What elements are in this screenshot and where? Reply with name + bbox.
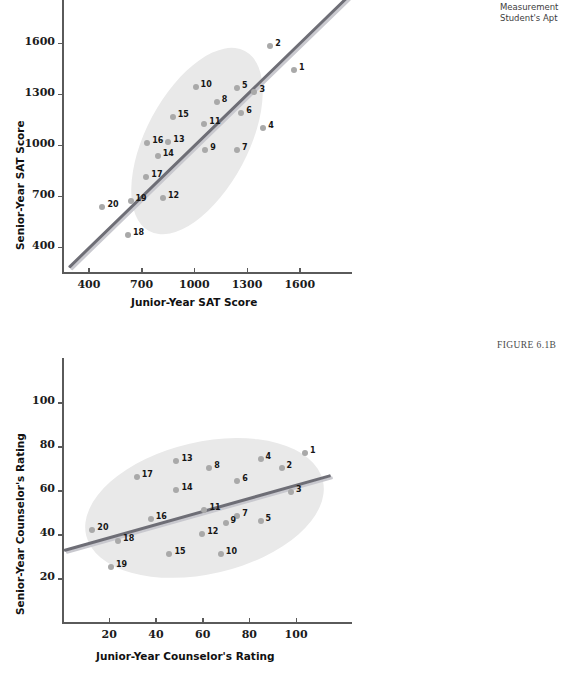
data-point-4[interactable] bbox=[258, 456, 264, 462]
data-point-label-12: 12 bbox=[207, 527, 218, 536]
y-tick-label-1600: 1600 bbox=[14, 35, 55, 48]
data-point-label-5: 5 bbox=[266, 514, 272, 523]
y-tick-label-100: 100 bbox=[14, 394, 55, 407]
data-point-label-20: 20 bbox=[97, 523, 108, 532]
data-point-label-17: 17 bbox=[142, 470, 153, 479]
data-point-label-2: 2 bbox=[287, 461, 293, 470]
y-tick-400 bbox=[58, 247, 63, 249]
x-tick-1300 bbox=[247, 268, 249, 273]
figure-a-caption: Measurement Student's Apt bbox=[500, 2, 558, 24]
y-tick-1600 bbox=[58, 43, 63, 45]
data-point-label-17: 17 bbox=[151, 170, 162, 179]
data-point-label-14: 14 bbox=[181, 483, 192, 492]
y-tick-1000 bbox=[58, 145, 63, 147]
data-point-4[interactable] bbox=[260, 125, 266, 131]
y-axis-title-b: Senior-Year Counselor's Rating bbox=[14, 433, 26, 615]
data-point-label-18: 18 bbox=[123, 534, 134, 543]
data-point-label-1: 1 bbox=[299, 63, 305, 72]
data-point-16[interactable] bbox=[144, 140, 150, 146]
data-point-label-11: 11 bbox=[209, 117, 220, 126]
y-tick-20 bbox=[58, 578, 63, 580]
data-point-label-4: 4 bbox=[266, 452, 272, 461]
y-axis-line bbox=[62, 0, 64, 272]
data-point-20[interactable] bbox=[99, 204, 105, 210]
figure-b: FIGURE 6.1B 2040608010020406080100123456… bbox=[0, 330, 572, 675]
data-point-label-16: 16 bbox=[152, 136, 163, 145]
data-point-label-8: 8 bbox=[214, 461, 220, 470]
y-tick-80 bbox=[58, 446, 63, 448]
data-point-14[interactable] bbox=[155, 153, 161, 159]
data-point-label-6: 6 bbox=[242, 474, 248, 483]
figure-b-label: FIGURE 6.1B bbox=[497, 340, 556, 351]
x-axis-line bbox=[62, 272, 352, 274]
data-point-label-11: 11 bbox=[209, 503, 220, 512]
data-point-label-9: 9 bbox=[231, 516, 237, 525]
data-point-20[interactable] bbox=[89, 527, 95, 533]
x-tick-80 bbox=[249, 618, 251, 623]
data-point-1[interactable] bbox=[302, 450, 308, 456]
data-point-10[interactable] bbox=[193, 84, 199, 90]
data-point-10[interactable] bbox=[218, 551, 224, 557]
x-tick-1000 bbox=[194, 268, 196, 273]
y-tick-1300 bbox=[58, 94, 63, 96]
x-tick-700 bbox=[141, 268, 143, 273]
data-point-label-20: 20 bbox=[107, 200, 118, 209]
data-point-label-19: 19 bbox=[116, 560, 127, 569]
data-point-label-16: 16 bbox=[156, 512, 167, 521]
data-point-label-13: 13 bbox=[181, 454, 192, 463]
data-point-label-13: 13 bbox=[173, 135, 184, 144]
data-point-label-15: 15 bbox=[178, 110, 189, 119]
x-tick-1600 bbox=[299, 268, 301, 273]
x-axis-line bbox=[62, 622, 352, 624]
data-point-label-7: 7 bbox=[242, 509, 248, 518]
data-point-2[interactable] bbox=[267, 43, 273, 49]
data-point-1[interactable] bbox=[291, 67, 297, 73]
data-point-label-7: 7 bbox=[242, 143, 248, 152]
data-point-label-18: 18 bbox=[133, 228, 144, 237]
x-tick-label-1600: 1600 bbox=[269, 278, 330, 291]
x-tick-label-100: 100 bbox=[266, 628, 327, 641]
data-point-18[interactable] bbox=[115, 538, 121, 544]
x-tick-100 bbox=[296, 618, 298, 623]
figure-a: Measurement Student's Apt 40070010001300… bbox=[0, 0, 572, 330]
data-point-label-6: 6 bbox=[246, 106, 252, 115]
y-tick-700 bbox=[58, 196, 63, 198]
data-point-label-15: 15 bbox=[174, 547, 185, 556]
figure-a-caption-line1: Measurement bbox=[500, 2, 558, 13]
data-point-label-8: 8 bbox=[222, 95, 228, 104]
x-tick-20 bbox=[109, 618, 111, 623]
y-axis-title-a: Senior-Year SAT Score bbox=[14, 120, 26, 250]
y-tick-label-1300: 1300 bbox=[14, 86, 55, 99]
data-point-label-3: 3 bbox=[296, 485, 302, 494]
data-point-5[interactable] bbox=[258, 518, 264, 524]
data-point-label-2: 2 bbox=[275, 39, 281, 48]
data-point-17[interactable] bbox=[134, 474, 140, 480]
data-point-2[interactable] bbox=[279, 465, 285, 471]
scatter-plot-counselor: 2040608010020406080100123456789101112131… bbox=[0, 330, 400, 675]
data-point-19[interactable] bbox=[108, 564, 114, 570]
y-tick-40 bbox=[58, 534, 63, 536]
scatter-plot-sat: 4007001000130016004007001000130016001234… bbox=[0, 0, 400, 330]
y-tick-100 bbox=[58, 402, 63, 404]
data-point-label-1: 1 bbox=[310, 446, 316, 455]
data-point-label-10: 10 bbox=[226, 547, 237, 556]
data-point-label-4: 4 bbox=[268, 121, 274, 130]
data-point-label-5: 5 bbox=[242, 81, 248, 90]
x-tick-400 bbox=[88, 268, 90, 273]
data-point-label-10: 10 bbox=[201, 80, 212, 89]
data-point-label-9: 9 bbox=[210, 143, 216, 152]
data-point-18[interactable] bbox=[125, 232, 131, 238]
data-point-label-12: 12 bbox=[168, 191, 179, 200]
data-point-label-3: 3 bbox=[259, 85, 265, 94]
x-tick-40 bbox=[155, 618, 157, 623]
figure-a-caption-line2: Student's Apt bbox=[500, 13, 558, 24]
data-point-label-19: 19 bbox=[136, 194, 147, 203]
data-point-9[interactable] bbox=[223, 520, 229, 526]
data-point-8[interactable] bbox=[214, 99, 220, 105]
y-tick-60 bbox=[58, 490, 63, 492]
x-axis-title-b: Junior-Year Counselor's Rating bbox=[96, 650, 274, 662]
x-tick-60 bbox=[202, 618, 204, 623]
x-axis-title-a: Junior-Year SAT Score bbox=[131, 296, 257, 308]
regression-line-shadow bbox=[70, 0, 352, 271]
data-point-16[interactable] bbox=[148, 516, 154, 522]
